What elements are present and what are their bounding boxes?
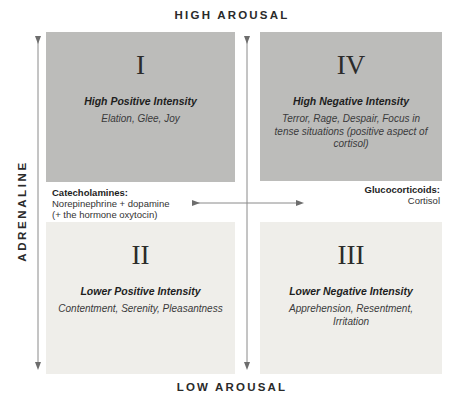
note-heading: Catecholamines: bbox=[52, 187, 128, 198]
note-line: (+ the hormone oxytocin) bbox=[52, 209, 170, 220]
quadrant-description: Terror, Rage, Despair, Focus in tense si… bbox=[260, 113, 442, 151]
glucocorticoids-note: Glucocorticoids: Cortisol bbox=[365, 184, 440, 206]
note-line: Cortisol bbox=[365, 195, 440, 206]
quadrant-description: Elation, Glee, Joy bbox=[46, 113, 235, 126]
quadrant-iii: III Lower Negative Intensity Apprehensio… bbox=[260, 222, 442, 374]
quadrant-ii: II Lower Positive Intensity Contentment,… bbox=[46, 222, 235, 374]
quadrant-numeral: II bbox=[46, 242, 235, 269]
quadrant-description: Contentment, Serenity, Pleasantness bbox=[46, 303, 235, 316]
catecholamines-note: Catecholamines: Norepinephrine + dopamin… bbox=[52, 187, 170, 220]
quadrant-numeral: III bbox=[260, 242, 442, 269]
quadrant-title: High Positive Intensity bbox=[46, 95, 235, 107]
note-line: Norepinephrine + dopamine bbox=[52, 198, 170, 209]
quadrant-numeral: I bbox=[46, 52, 235, 79]
note-heading: Glucocorticoids: bbox=[365, 184, 440, 195]
quadrant-description: Apprehension, Resentment, Irritation bbox=[260, 303, 442, 328]
quadrant-title: High Negative Intensity bbox=[260, 95, 442, 107]
quadrant-numeral: IV bbox=[260, 52, 442, 79]
quadrant-i: I High Positive Intensity Elation, Glee,… bbox=[46, 32, 235, 182]
quadrant-title: Lower Positive Intensity bbox=[46, 285, 235, 297]
quadrant-iv: IV High Negative Intensity Terror, Rage,… bbox=[260, 32, 442, 181]
quadrant-title: Lower Negative Intensity bbox=[260, 285, 442, 297]
